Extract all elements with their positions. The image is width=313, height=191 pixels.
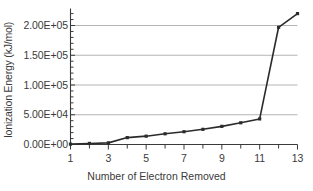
x-axis-title: Number of Electron Removed — [0, 170, 313, 182]
x-axis-title-text: Number of Electron Removed — [87, 170, 225, 182]
x-tick-label: 9 — [219, 153, 225, 164]
x-tick-label: 1 — [68, 153, 74, 164]
x-tick-label: 3 — [105, 153, 111, 164]
x-tick-label: 13 — [292, 153, 304, 164]
x-tick-label: 5 — [143, 153, 149, 164]
ionization-energy-chart: Ionization Energy (kJ/mol) 0.00E+005.00E… — [0, 0, 313, 191]
x-axis-tick-labels: 135791113 — [0, 0, 313, 191]
x-tick-label: 11 — [254, 153, 265, 164]
x-tick-label: 7 — [181, 153, 187, 164]
